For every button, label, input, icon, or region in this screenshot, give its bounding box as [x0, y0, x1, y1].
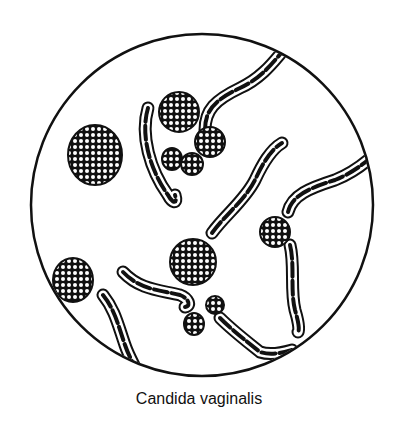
spore-cell	[181, 153, 203, 175]
spore-cell	[206, 296, 224, 314]
hypha	[205, 52, 282, 130]
spore-cell	[68, 125, 122, 185]
microscope-field-drawing	[0, 0, 398, 390]
hypha	[288, 160, 368, 212]
spore-cell	[159, 92, 199, 132]
figure-caption: Candida vaginalis	[0, 390, 398, 408]
spore-cell	[162, 148, 182, 170]
spore-cell	[184, 313, 204, 335]
spore-cell	[195, 127, 225, 157]
hypha	[220, 318, 292, 354]
spore-cell	[260, 217, 290, 247]
hypha	[290, 245, 299, 332]
spore-cell	[53, 258, 93, 302]
spore-cell	[170, 239, 216, 285]
hypha	[103, 295, 140, 380]
microscope-field-figure	[0, 0, 398, 390]
hyphae-group	[103, 52, 368, 380]
